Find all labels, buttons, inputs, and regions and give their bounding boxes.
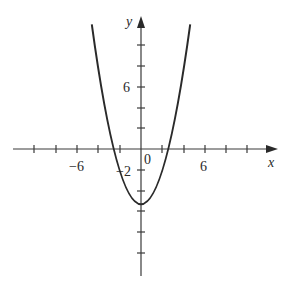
y-tick-label-6: 6: [123, 80, 130, 95]
x-tick-label-6: 6: [200, 159, 207, 174]
x-axis-label: x: [267, 155, 275, 170]
y-axis-label: y: [124, 14, 133, 29]
y-axis-arrow-icon: [137, 16, 145, 28]
x-axis-arrow-icon: [266, 145, 278, 153]
x-tick-label-neg6: −6: [69, 159, 84, 174]
origin-label: 0: [144, 152, 151, 167]
y-tick-label-neg2: −2: [116, 164, 131, 179]
graph: y x 0 −6 6 6 −2: [0, 0, 289, 291]
